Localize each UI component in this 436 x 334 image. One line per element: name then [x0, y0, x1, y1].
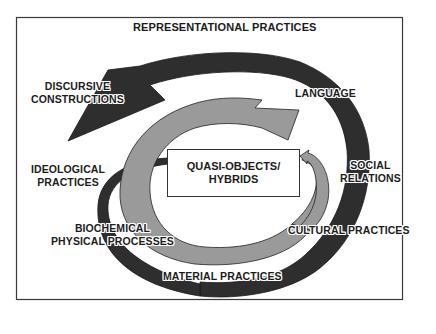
center-box-quasi-objects: QUASI-OBJECTS/ HYBRIDS — [167, 149, 300, 197]
label-ideological-practices: IDEOLOGICAL PRACTICES — [31, 163, 105, 189]
title-representational-practices: REPRESENTATIONAL PRACTICES — [133, 21, 317, 34]
label-social-relations: SOCIAL RELATIONS — [340, 159, 401, 185]
label-biochemical-physical-processes: BIOCHEMICAL PHYSICAL PROCESSES — [51, 222, 174, 248]
label-discursive-constructions: DISCURSIVE CONSTRUCTIONS — [31, 80, 124, 106]
label-biochemical-line1: BIOCHEMICAL — [51, 222, 174, 235]
label-social-line2: RELATIONS — [340, 172, 401, 185]
label-ideological-line2: PRACTICES — [31, 176, 105, 189]
center-box-line1: QUASI-OBJECTS/ — [187, 160, 281, 173]
label-discursive-line1: DISCURSIVE — [31, 80, 124, 93]
label-language: LANGUAGE — [295, 87, 356, 100]
label-ideological-line1: IDEOLOGICAL — [31, 163, 105, 176]
label-cultural-practices: CULTURAL PRACTICES — [288, 224, 410, 237]
label-biochemical-line2: PHYSICAL PROCESSES — [51, 235, 174, 248]
label-material-practices: MATERIAL PRACTICES — [163, 270, 282, 283]
label-social-line1: SOCIAL — [340, 159, 401, 172]
center-box-line2: HYBRIDS — [187, 173, 281, 186]
label-discursive-line2: CONSTRUCTIONS — [31, 93, 124, 106]
